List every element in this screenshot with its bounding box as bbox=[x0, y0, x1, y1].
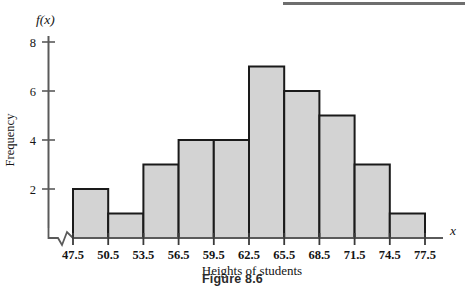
histogram-bar bbox=[179, 140, 214, 238]
y-axis-tick-label: 2 bbox=[30, 183, 36, 197]
y-axis-tick-label: 6 bbox=[30, 85, 36, 99]
x-axis-tick-label: 62.5 bbox=[238, 248, 260, 262]
x-axis-tick-label: 59.5 bbox=[203, 248, 225, 262]
x-axis-tick-label: 53.5 bbox=[132, 248, 154, 262]
histogram-bar bbox=[390, 214, 425, 239]
x-axis-tick-label: 50.5 bbox=[97, 248, 119, 262]
y-axis-symbol-label: f(x) bbox=[36, 12, 55, 27]
histogram-bar bbox=[143, 165, 178, 239]
x-axis-tick-label: 74.5 bbox=[379, 248, 401, 262]
x-axis-tick-label: 56.5 bbox=[168, 248, 190, 262]
figure-caption: Figure 8.6 bbox=[0, 272, 465, 286]
histogram-chart: 2468 47.550.553.556.559.562.565.568.571.… bbox=[0, 0, 465, 295]
y-axis-title: Frequency bbox=[3, 113, 17, 167]
y-axis-ticks: 2468 bbox=[30, 36, 55, 197]
histogram-bar bbox=[249, 67, 284, 239]
x-axis-tick-label: 68.5 bbox=[308, 248, 330, 262]
histogram-bar bbox=[284, 91, 319, 238]
x-axis-tick-label: 71.5 bbox=[344, 248, 366, 262]
y-axis-tick-label: 8 bbox=[30, 36, 36, 50]
axis-break-zigzag-icon bbox=[49, 228, 74, 245]
histogram-bar bbox=[73, 189, 108, 238]
histogram-bars bbox=[73, 67, 425, 239]
x-axis-tick-label: 47.5 bbox=[62, 248, 84, 262]
histogram-bar bbox=[108, 214, 143, 239]
y-axis-tick-label: 4 bbox=[30, 134, 37, 148]
x-axis-tick-label: 65.5 bbox=[273, 248, 295, 262]
histogram-bar bbox=[355, 165, 390, 239]
x-axis-symbol-label: x bbox=[449, 223, 456, 238]
histogram-bar bbox=[319, 116, 354, 239]
histogram-bar bbox=[214, 140, 249, 238]
figure-container: 2468 47.550.553.556.559.562.565.568.571.… bbox=[0, 0, 465, 295]
x-axis-tick-label: 77.5 bbox=[414, 248, 436, 262]
